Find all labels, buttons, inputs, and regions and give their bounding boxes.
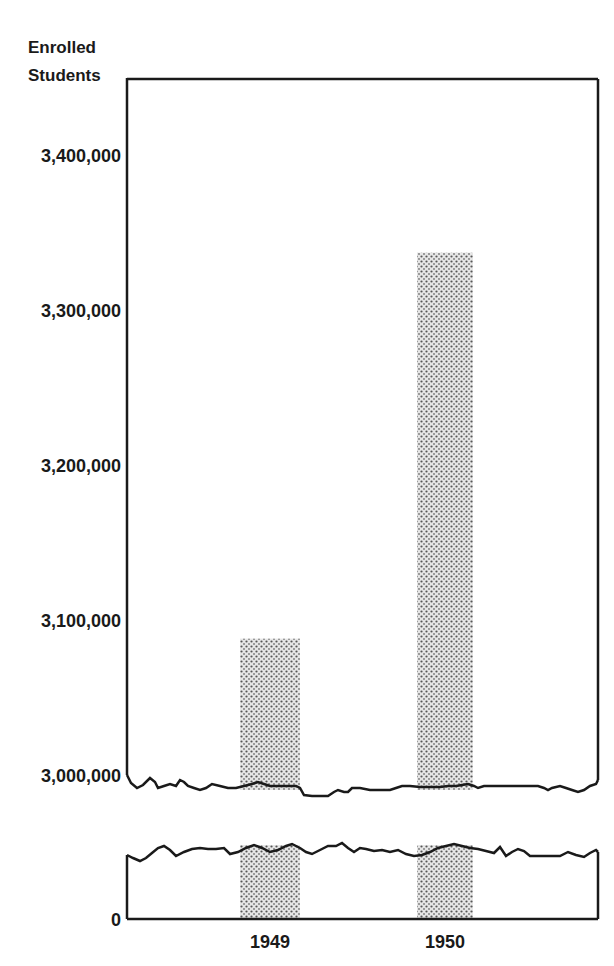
bar-1949-upper xyxy=(240,639,300,790)
bar-1950-lower xyxy=(417,845,473,919)
bar-1949-lower xyxy=(240,845,300,919)
bars-upper-segment xyxy=(240,253,473,790)
enrollment-chart: Enrolled Students 03,000,0003,100,0003,2… xyxy=(0,0,614,966)
x-tick-label-1950: 1950 xyxy=(425,932,465,952)
y-axis-title-line-2: Students xyxy=(28,66,101,85)
y-axis-title-line-1: Enrolled xyxy=(28,38,96,57)
y-tick-label: 3,100,000 xyxy=(41,611,121,631)
bars-lower-segment xyxy=(240,845,473,919)
x-tick-label-1949: 1949 xyxy=(250,932,290,952)
x-tick-labels: 19491950 xyxy=(250,932,465,952)
y-tick-label: 3,300,000 xyxy=(41,301,121,321)
y-tick-labels: 03,000,0003,100,0003,200,0003,300,0003,4… xyxy=(41,146,121,930)
y-tick-label: 3,400,000 xyxy=(41,146,121,166)
y-tick-label: 3,200,000 xyxy=(41,456,121,476)
axis-break-lower-line xyxy=(127,843,598,861)
y-tick-label: 3,000,000 xyxy=(41,766,121,786)
axis-break-upper-line xyxy=(127,775,598,796)
bar-1950-upper xyxy=(417,253,473,790)
y-tick-label: 0 xyxy=(111,910,121,930)
